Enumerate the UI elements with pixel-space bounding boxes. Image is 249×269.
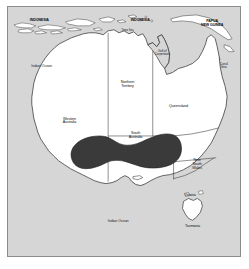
map-frame: INDONESIA INDONESIA PAPUA NEW GUINEA Wes… [7,6,241,257]
australia-map-graphic [8,7,240,256]
distribution-map-figure: INDONESIA INDONESIA PAPUA NEW GUINEA Wes… [0,0,249,269]
